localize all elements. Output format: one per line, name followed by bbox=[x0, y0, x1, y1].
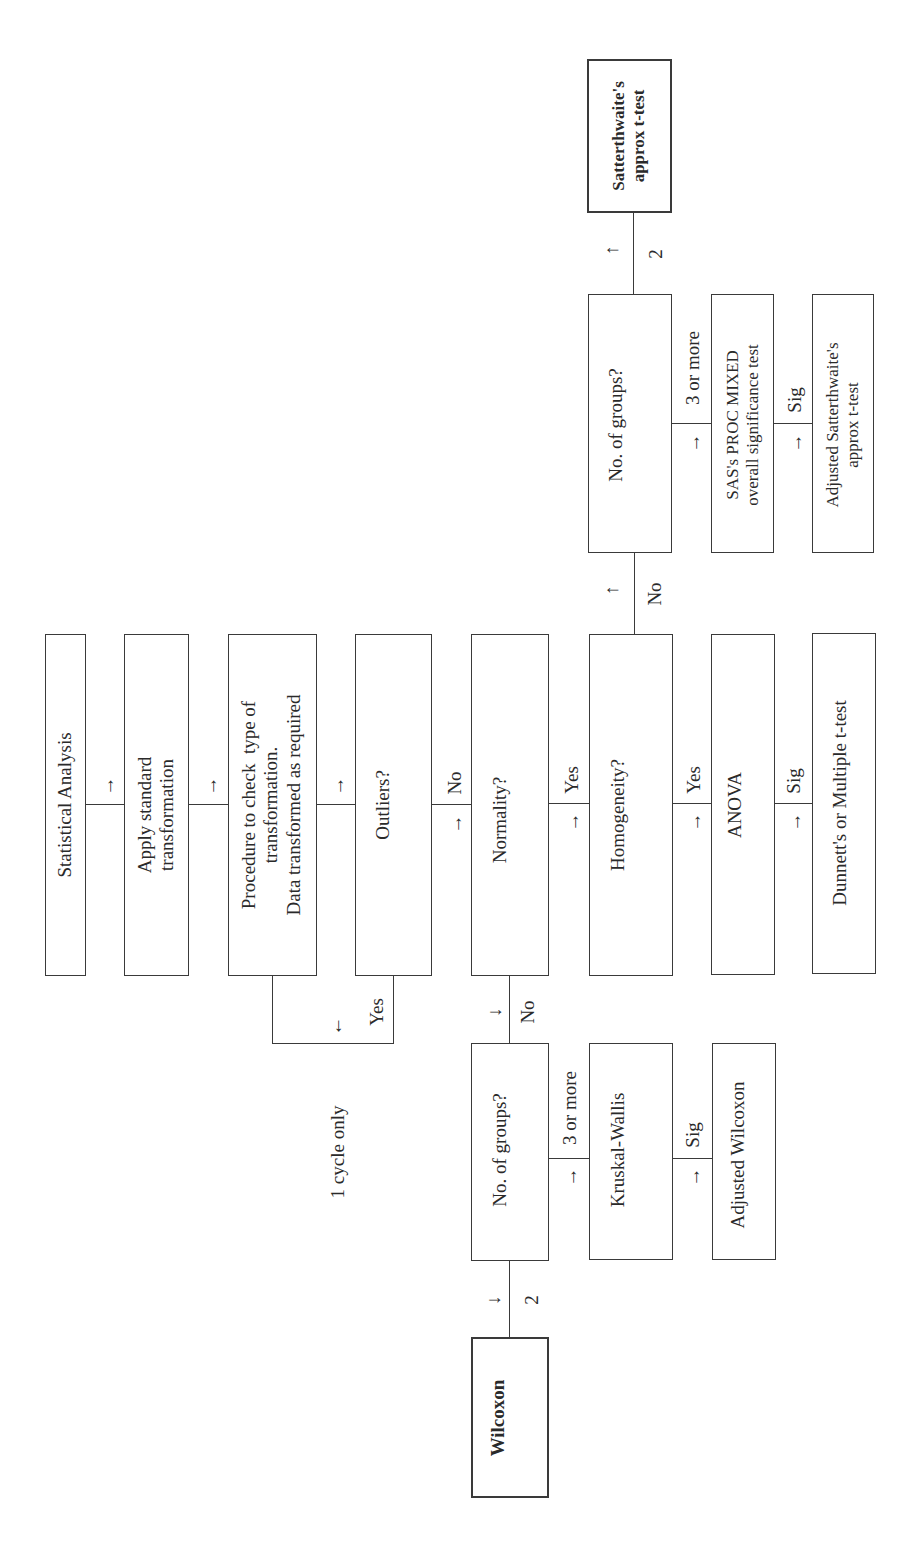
connector-outliers-to-normality bbox=[432, 804, 471, 805]
arrow-right-icon: → bbox=[684, 1168, 703, 1187]
node-adjusted-wilcoxon-label: Adjusted Wilcoxon bbox=[727, 1081, 749, 1228]
arrow-right-icon: → bbox=[201, 777, 220, 796]
arrow-right-icon: → bbox=[684, 434, 703, 453]
connector-outliers-yes-across bbox=[272, 1043, 394, 1044]
connector-apply-to-procedure bbox=[189, 804, 228, 805]
connector-kruskal-sig bbox=[673, 1158, 712, 1159]
edge-label-normality-no: No bbox=[517, 1000, 539, 1023]
node-sas-proc-mixed-label: SAS's PROC MIXED overall significance te… bbox=[723, 344, 763, 505]
node-statistical-analysis-label: Statistical Analysis bbox=[54, 732, 76, 877]
connector-nonparam-two bbox=[509, 1261, 510, 1337]
node-kruskal-wallis-label: Kruskal-Wallis bbox=[607, 1093, 629, 1208]
arrow-right-icon: → bbox=[561, 1168, 580, 1187]
connector-normality-to-homogeneity bbox=[549, 803, 589, 804]
node-procedure-check-transformation-label: Procedure to check type of transformatio… bbox=[238, 694, 305, 915]
arrow-right-icon: → bbox=[785, 813, 804, 832]
node-no-of-groups-nonparametric-label: No. of groups? bbox=[489, 1093, 511, 1206]
connector-homogeneity-to-anova bbox=[673, 803, 711, 804]
connector-param-three-or-more bbox=[672, 423, 711, 424]
arrow-up-icon: ↑ bbox=[602, 245, 621, 255]
connector-procedure-to-outliers bbox=[317, 804, 355, 805]
arrow-down-icon: ↓ bbox=[484, 1295, 503, 1305]
edge-label-kruskal-sig: Sig bbox=[682, 1122, 704, 1147]
edge-label-normality-yes: Yes bbox=[561, 766, 583, 794]
arrow-right-icon: → bbox=[328, 777, 347, 796]
edge-label-param-two: 2 bbox=[645, 249, 667, 259]
edge-label-anova-sig: Sig bbox=[783, 768, 805, 793]
arrow-right-icon: → bbox=[98, 777, 117, 796]
node-anova-label: ANOVA bbox=[724, 772, 746, 838]
connector-anova-to-dunnetts bbox=[775, 803, 812, 804]
connector-stat-to-apply bbox=[86, 804, 124, 805]
connector-homogeneity-no bbox=[634, 553, 635, 634]
node-outliers-label: Outliers? bbox=[372, 770, 394, 840]
node-kruskal-wallis bbox=[589, 1043, 673, 1260]
arrow-up-icon: ↑ bbox=[602, 585, 621, 595]
annotation-one-cycle-only: 1 cycle only bbox=[327, 1106, 349, 1199]
connector-param-two bbox=[633, 213, 634, 294]
arrow-right-icon: → bbox=[786, 434, 805, 453]
connector-outliers-yes-up bbox=[272, 976, 273, 1044]
connector-sas-sig bbox=[774, 423, 812, 424]
connector-normality-no bbox=[509, 976, 510, 1043]
node-homogeneity bbox=[589, 634, 673, 976]
edge-label-homogeneity-yes: Yes bbox=[683, 766, 705, 794]
node-no-of-groups-parametric-label: No. of groups? bbox=[605, 368, 627, 481]
arrow-left-icon: ← bbox=[326, 1017, 345, 1036]
edge-label-homogeneity-no: No bbox=[644, 582, 666, 605]
node-normality-label: Normality? bbox=[489, 777, 511, 864]
node-wilcoxon-label: Wilcoxon bbox=[487, 1380, 509, 1457]
node-apply-standard-transformation-label: Apply standard transformation bbox=[134, 757, 179, 874]
arrow-right-icon: → bbox=[563, 813, 582, 832]
edge-label-nonparam-two: 2 bbox=[521, 1295, 543, 1305]
connector-outliers-yes-down bbox=[393, 976, 394, 1043]
edge-label-param-three-or-more: 3 or more bbox=[682, 331, 704, 405]
node-wilcoxon bbox=[471, 1337, 549, 1498]
connector-nonparam-three-or-more bbox=[549, 1158, 589, 1159]
node-homogeneity-label: Homogeneity? bbox=[607, 759, 629, 871]
arrow-right-icon: → bbox=[685, 813, 704, 832]
edge-label-outliers-yes: Yes bbox=[366, 998, 388, 1026]
edge-label-nonparam-three-or-more: 3 or more bbox=[559, 1071, 581, 1145]
edge-label-outliers-no: No bbox=[444, 771, 466, 794]
node-adjusted-satterthwaite-label: Adjusted Satterthwaite's approx t-test bbox=[823, 342, 863, 507]
node-no-of-groups-parametric bbox=[588, 294, 672, 553]
arrow-right-icon: → bbox=[446, 815, 465, 834]
node-satterthwaite-label: Satterthwaite's approx t-test bbox=[609, 81, 649, 191]
arrow-down-icon: ↓ bbox=[485, 1007, 504, 1017]
node-dunnetts-multiple-t-test-label: Dunnett's or Multiple t-test bbox=[829, 700, 851, 906]
edge-label-sas-sig: Sig bbox=[784, 387, 806, 412]
